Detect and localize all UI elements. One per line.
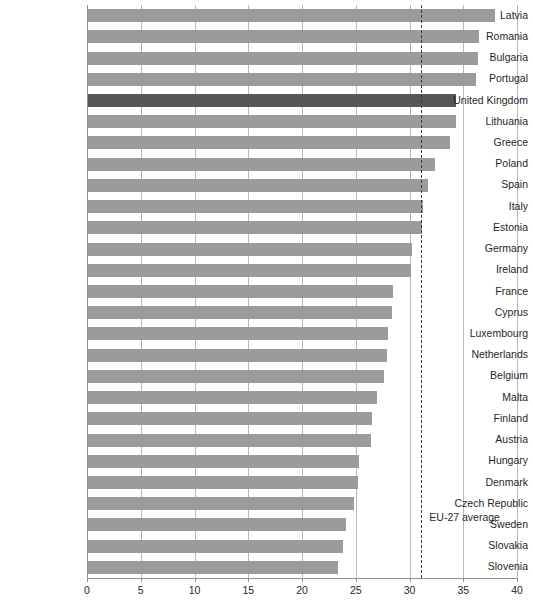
category-label: Slovenia: [451, 560, 533, 572]
bar: [88, 455, 359, 468]
bar: [88, 285, 393, 298]
category-label: Luxembourg: [451, 327, 533, 339]
bar: [88, 52, 478, 65]
category-label: Germany: [451, 242, 533, 254]
bar: [88, 264, 411, 277]
category-label: Italy: [451, 200, 533, 212]
eu-average-label: EU-27 average: [429, 511, 500, 523]
bar: [88, 518, 346, 531]
x-tick-mark-20: [302, 578, 303, 582]
category-label: Bulgaria: [451, 51, 533, 63]
bar: [88, 73, 476, 86]
category-label: Estonia: [451, 221, 533, 233]
bar: [88, 221, 422, 234]
x-tick-mark-25: [356, 578, 357, 582]
bar: [88, 243, 412, 256]
bar: [88, 434, 371, 447]
bar: [88, 540, 343, 553]
category-label: Hungary: [451, 454, 533, 466]
bar: [88, 349, 387, 362]
category-label: Ireland: [451, 263, 533, 275]
bar: [88, 115, 456, 128]
category-label: Portugal: [451, 72, 533, 84]
category-label: Slovakia: [451, 539, 533, 551]
bar: [88, 561, 338, 574]
x-tick-label: 40: [511, 584, 523, 596]
bar: [88, 9, 495, 22]
bar: [88, 370, 384, 383]
x-tick-label: 35: [457, 584, 469, 596]
category-label: Spain: [451, 178, 533, 190]
bar: [88, 158, 435, 171]
category-label: Greece: [451, 136, 533, 148]
eu-average-line: [421, 5, 422, 578]
x-tick-label: 15: [242, 584, 254, 596]
category-label: Latvia: [451, 9, 533, 21]
category-label: Austria: [451, 433, 533, 445]
category-label: Czech Republic: [451, 497, 533, 509]
category-label: Poland: [451, 157, 533, 169]
category-label: France: [451, 285, 533, 297]
category-label: Malta: [451, 391, 533, 403]
bar: [88, 412, 372, 425]
bar: [88, 306, 392, 319]
bar: [88, 94, 456, 107]
bar: [88, 179, 428, 192]
x-tick-label: 20: [296, 584, 308, 596]
bar: [88, 391, 377, 404]
x-tick-mark-10: [195, 578, 196, 582]
bar: [88, 497, 354, 510]
bar-chart: 0510152025303540 LatviaRomaniaBulgariaPo…: [0, 0, 533, 609]
bar: [88, 327, 388, 340]
category-label: Denmark: [451, 476, 533, 488]
bar: [88, 200, 423, 213]
category-label: Cyprus: [451, 306, 533, 318]
gridline-30: [410, 5, 411, 578]
category-label: Lithuania: [451, 115, 533, 127]
x-tick-mark-35: [463, 578, 464, 582]
x-tick-mark-0: [87, 578, 88, 582]
category-label: Finland: [451, 412, 533, 424]
bar: [88, 476, 358, 489]
x-tick-mark-15: [248, 578, 249, 582]
x-tick-mark-40: [517, 578, 518, 582]
x-tick-label: 30: [404, 584, 416, 596]
bar: [88, 136, 450, 149]
category-label: United Kingdom: [451, 94, 533, 106]
category-label: Romania: [451, 30, 533, 42]
x-tick-label: 5: [138, 584, 144, 596]
category-label: Netherlands: [451, 348, 533, 360]
x-tick-label: 0: [84, 584, 90, 596]
x-tick-label: 10: [189, 584, 201, 596]
x-tick-mark-5: [141, 578, 142, 582]
x-tick-mark-30: [410, 578, 411, 582]
category-label: Belgium: [451, 369, 533, 381]
x-tick-label: 25: [350, 584, 362, 596]
